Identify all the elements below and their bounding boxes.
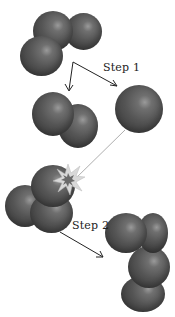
step2-label: Step 2	[72, 219, 109, 232]
trajectory-line	[74, 130, 125, 180]
starburst-icon	[53, 164, 85, 195]
arrows-layer	[0, 0, 175, 317]
step1-label: Step 1	[103, 61, 140, 74]
reaction-diagram: Step 1 Step 2	[0, 0, 175, 317]
step2-arrow	[60, 232, 103, 257]
